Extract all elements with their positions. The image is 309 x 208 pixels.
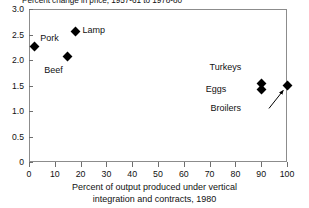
x-axis-label: Percent of output produced under vertica… [0,182,309,205]
x-axis-label-line1: Percent of output produced under vertica… [0,182,309,194]
annotation-layer [0,0,309,208]
chart-root: Percent change in price, 1957-61 to 1978… [0,0,309,208]
broilers-leader-arrow [269,91,283,109]
x-axis-label-line2: integration and contracts, 1980 [0,194,309,206]
